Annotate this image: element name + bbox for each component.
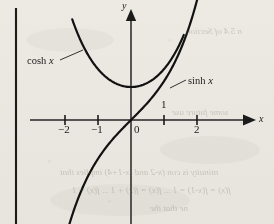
x-tick-label-1: 1 — [161, 99, 167, 110]
sinh-curve-label: sinh x — [188, 76, 213, 87]
y-axis-label: y — [122, 1, 126, 11]
cosh-curve-label: cosh x — [27, 56, 54, 67]
x-tick-label--2: −2 — [58, 124, 70, 135]
plot-canvas — [0, 0, 274, 224]
y-axis-arrowhead — [126, 9, 136, 21]
x-tick-label-2: 2 — [194, 124, 200, 135]
origin-label: 0 — [134, 124, 140, 135]
bleed-smudges — [26, 28, 260, 216]
sinh-label-leader-line — [170, 80, 186, 88]
x-axis-label: x — [259, 114, 263, 124]
x-axis-arrowhead — [243, 115, 256, 126]
x-tick-label--1: −1 — [91, 124, 103, 135]
hyperbolic-functions-figure: y x 0 cosh x sinh x −2−112 n 5.4 of Sect… — [0, 0, 274, 224]
